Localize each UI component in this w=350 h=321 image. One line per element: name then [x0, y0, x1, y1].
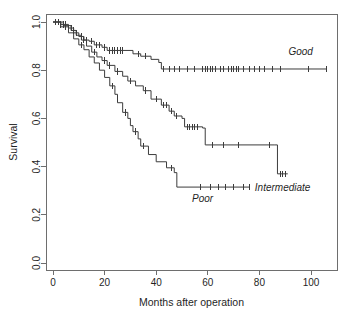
- x-axis-title: Months after operation: [139, 296, 244, 308]
- y-tick-label: 1.0: [31, 15, 42, 29]
- x-tick-label: 60: [202, 277, 214, 288]
- y-tick-label: 0.2: [31, 207, 42, 221]
- survival-curves-group: [53, 22, 326, 187]
- x-tick-label: 80: [254, 277, 266, 288]
- x-tick-label: 40: [151, 277, 163, 288]
- survival-curve-poor: [53, 22, 249, 187]
- survival-plot-figure: 0204060801000.00.20.40.60.81.0 GoodInter…: [0, 0, 350, 321]
- curve-label-poor: Poor: [192, 193, 214, 204]
- x-tick-label: 20: [99, 277, 111, 288]
- y-tick-label: 0.8: [31, 63, 42, 77]
- tick-labels-group: 0204060801000.00.20.40.60.81.0: [31, 15, 320, 288]
- survival-curve-intermediate: [53, 22, 288, 174]
- x-tick-label: 100: [303, 277, 320, 288]
- curve-label-intermediate: Intermediate: [255, 182, 311, 193]
- y-tick-label: 0.0: [31, 256, 42, 270]
- kaplan-meier-chart: 0204060801000.00.20.40.60.81.0 GoodInter…: [0, 0, 350, 321]
- ticks-group: [41, 22, 311, 275]
- y-axis-title: Survival: [7, 123, 19, 160]
- curve-label-good: Good: [288, 46, 313, 57]
- y-tick-label: 0.4: [31, 159, 42, 173]
- x-tick-label: 0: [50, 277, 56, 288]
- y-tick-label: 0.6: [31, 111, 42, 125]
